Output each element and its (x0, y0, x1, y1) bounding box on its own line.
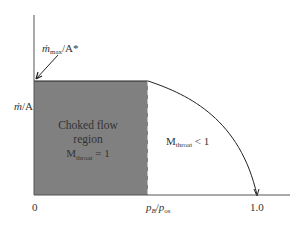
choked-mach-label: Mthroat = 1 (38, 146, 138, 165)
mach-symbol: M (166, 135, 176, 147)
choked-line1: Choked flow (38, 118, 138, 132)
throat-subscript: throat (76, 154, 92, 162)
throat-subscript: throat (176, 141, 192, 149)
mach-less-than-one: < 1 (192, 135, 209, 147)
max-subscript: max (50, 48, 62, 56)
choked-line2: region (38, 132, 138, 146)
mach-symbol: M (66, 147, 76, 159)
critical-pressure-ratio-label: pB/pos (146, 202, 171, 215)
subsonic-mach-label: Mthroat < 1 (166, 136, 209, 149)
mass-flow-diagram (0, 0, 302, 225)
mach-equals-one: = 1 (92, 147, 109, 159)
per-area-text: /A (22, 100, 33, 112)
mdot-symbol: ṁ (42, 42, 50, 54)
y-axis-label: ṁ/A (14, 101, 33, 112)
x-origin-label: 0 (32, 202, 38, 213)
x-end-label: 1.0 (250, 202, 264, 213)
area-star-text: /A* (62, 42, 79, 54)
os-subscript: os (164, 207, 170, 215)
max-flow-annotation: ṁmax/A* (42, 43, 79, 56)
mdot-symbol: ṁ (14, 100, 22, 112)
choked-region-label: Choked flow region Mthroat = 1 (38, 118, 138, 165)
annotation-arrow-line (36, 55, 58, 79)
